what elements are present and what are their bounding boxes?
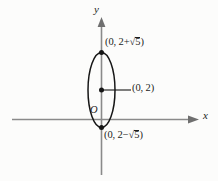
y-axis-label: y (94, 4, 99, 15)
bottom-vertex-radical-bar (134, 130, 140, 131)
top-vertex-radical: √5 (130, 36, 141, 47)
top-vertex-label: (0, 2+√5) (105, 37, 144, 48)
bottom-vertex-radical: √5 (129, 129, 140, 140)
top-vertex-radical-bar (135, 37, 141, 38)
x-axis-arrowhead (188, 116, 199, 124)
origin-label: O (90, 105, 98, 116)
center-label: (0, 2) (132, 83, 154, 94)
center-point (99, 88, 104, 93)
top-vertex-point (99, 50, 104, 55)
diagram-canvas (0, 0, 218, 181)
top-vertex-radicand: 5 (135, 36, 140, 47)
bottom-vertex-label-suffix: ) (139, 129, 142, 140)
top-vertex-label-suffix: ) (140, 36, 143, 47)
ellipse-coordinate-diagram: y x O (0, 2+√5) (0, 2) (0, 2−√5) (0, 0, 218, 181)
top-vertex-label-prefix: (0, 2+ (105, 36, 130, 47)
bottom-vertex-label: (0, 2−√5) (104, 130, 143, 141)
x-axis-label: x (203, 110, 208, 121)
bottom-vertex-label-prefix: (0, 2− (104, 129, 129, 140)
y-axis-arrowhead (98, 17, 106, 27)
bottom-vertex-radicand: 5 (134, 129, 139, 140)
